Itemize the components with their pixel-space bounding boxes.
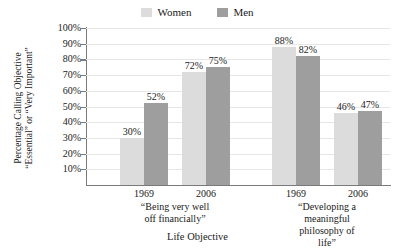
y-axis-tick-text: 40% bbox=[63, 117, 81, 127]
x-axis-year-label: 1969 bbox=[286, 187, 306, 200]
y-axis-tick-label: 90% bbox=[63, 38, 81, 50]
y-axis-tick-text: 70% bbox=[63, 70, 81, 80]
legend-item-men: Men bbox=[217, 7, 253, 18]
bar-men: 75% bbox=[206, 67, 230, 185]
x-axis-title: Life Objective bbox=[0, 231, 395, 242]
y-axis-tick-text: 90% bbox=[63, 39, 81, 49]
y-axis-ticks: 100%90%80%70%60%50%40%30%20%10% bbox=[0, 0, 86, 250]
y-axis-tick-label: 60% bbox=[63, 85, 81, 97]
bar-men: 52% bbox=[144, 103, 168, 185]
x-axis-year-label: 1969 bbox=[134, 187, 154, 200]
bar-women: 88% bbox=[272, 47, 296, 185]
y-axis-tick-text: 50% bbox=[63, 102, 81, 112]
y-axis-tick-text: 20% bbox=[63, 149, 81, 159]
bar-value-label: 47% bbox=[361, 100, 379, 110]
bar-women: 72% bbox=[182, 72, 206, 185]
y-axis-tick-text: 100% bbox=[58, 23, 81, 33]
y-axis-tick-text: 60% bbox=[63, 86, 81, 96]
x-axis-group-label-line1: “Being very well bbox=[141, 201, 209, 213]
y-axis-tick-text: 30% bbox=[63, 133, 81, 143]
legend-item-women: Women bbox=[141, 7, 191, 18]
x-axis-year-label: 2006 bbox=[196, 187, 216, 200]
bar-value-label: 46% bbox=[337, 102, 355, 112]
y-axis-tick-label: 100% bbox=[58, 22, 81, 34]
bar-women: 46% bbox=[334, 113, 358, 185]
x-axis-line bbox=[86, 185, 391, 186]
legend-label-men: Men bbox=[233, 7, 253, 18]
bar-women: 30% bbox=[120, 138, 144, 185]
legend-swatch-women bbox=[141, 8, 152, 17]
y-axis-tick-text: 80% bbox=[63, 54, 81, 64]
bar-value-label: 52% bbox=[147, 92, 165, 102]
x-axis-group-label-line2: off financially” bbox=[141, 213, 209, 225]
y-axis-tick-label: 30% bbox=[63, 132, 81, 144]
y-axis-tick-label: 80% bbox=[63, 53, 81, 65]
bar-men: 82% bbox=[296, 56, 320, 185]
y-axis-tick-label: 40% bbox=[63, 116, 81, 128]
x-axis-year-labels: 1969200619692006 bbox=[86, 187, 391, 201]
y-axis-tick-label: 10% bbox=[63, 163, 81, 175]
x-axis-group-label: “Being very welloff financially” bbox=[141, 201, 209, 225]
bar-value-label: 75% bbox=[209, 56, 227, 66]
bar-value-label: 72% bbox=[185, 61, 203, 71]
y-axis-tick-text: 10% bbox=[63, 164, 81, 174]
legend-label-women: Women bbox=[157, 7, 191, 18]
bar-value-label: 88% bbox=[275, 36, 293, 46]
y-axis-tick-label: 20% bbox=[63, 148, 81, 160]
y-axis-tick-label: 70% bbox=[63, 69, 81, 81]
y-axis-tick-label: 50% bbox=[63, 101, 81, 113]
x-axis-group-labels: “Being very welloff financially”“Develop… bbox=[86, 201, 391, 229]
legend-swatch-men bbox=[217, 8, 228, 17]
bar-value-label: 30% bbox=[123, 127, 141, 137]
bar-chart: Women Men Percentage Calling Objective “… bbox=[0, 0, 395, 250]
plot-area: 30%52%72%75%88%82%46%47% bbox=[86, 28, 390, 185]
x-axis-year-label: 2006 bbox=[348, 187, 368, 200]
bar-value-label: 82% bbox=[299, 45, 317, 55]
x-axis-group-label-line1: “Developing a meaningful bbox=[295, 201, 359, 225]
bar-men: 47% bbox=[358, 111, 382, 185]
bars-container: 30%52%72%75%88%82%46%47% bbox=[86, 28, 390, 185]
